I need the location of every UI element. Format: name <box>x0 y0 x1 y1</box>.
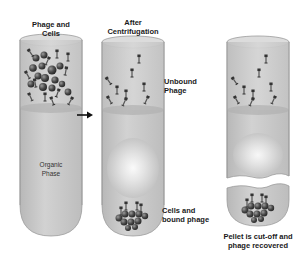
tube-cut-off <box>227 36 289 226</box>
bound-line2: bound phage <box>162 216 209 225</box>
tube-before-centrifugation <box>20 16 82 243</box>
phage-separation-diagram <box>0 0 306 260</box>
unbound-phage-label: Unbound Phage <box>164 78 197 95</box>
organic-phase-label: Organic Phase <box>26 161 76 178</box>
tube2-title-line2: Centrifugation <box>100 28 166 37</box>
organic-phase-line2: Phase <box>26 170 76 179</box>
tube1-title: Phage and Cells <box>22 21 80 38</box>
organic-phase-line1: Organic <box>26 161 76 170</box>
tube2-title: After Centrifugation <box>100 19 166 36</box>
unbound-line2: Phage <box>164 87 197 96</box>
bound-phage-label: Cells and bound phage <box>162 207 209 224</box>
tube1-title-line2: Cells <box>22 30 80 39</box>
tube3-caption-line2: phage recovered <box>220 242 296 251</box>
tube3-caption: Pellet is cut-off and phage recovered <box>220 233 296 250</box>
tube-after-centrifugation <box>102 36 164 236</box>
